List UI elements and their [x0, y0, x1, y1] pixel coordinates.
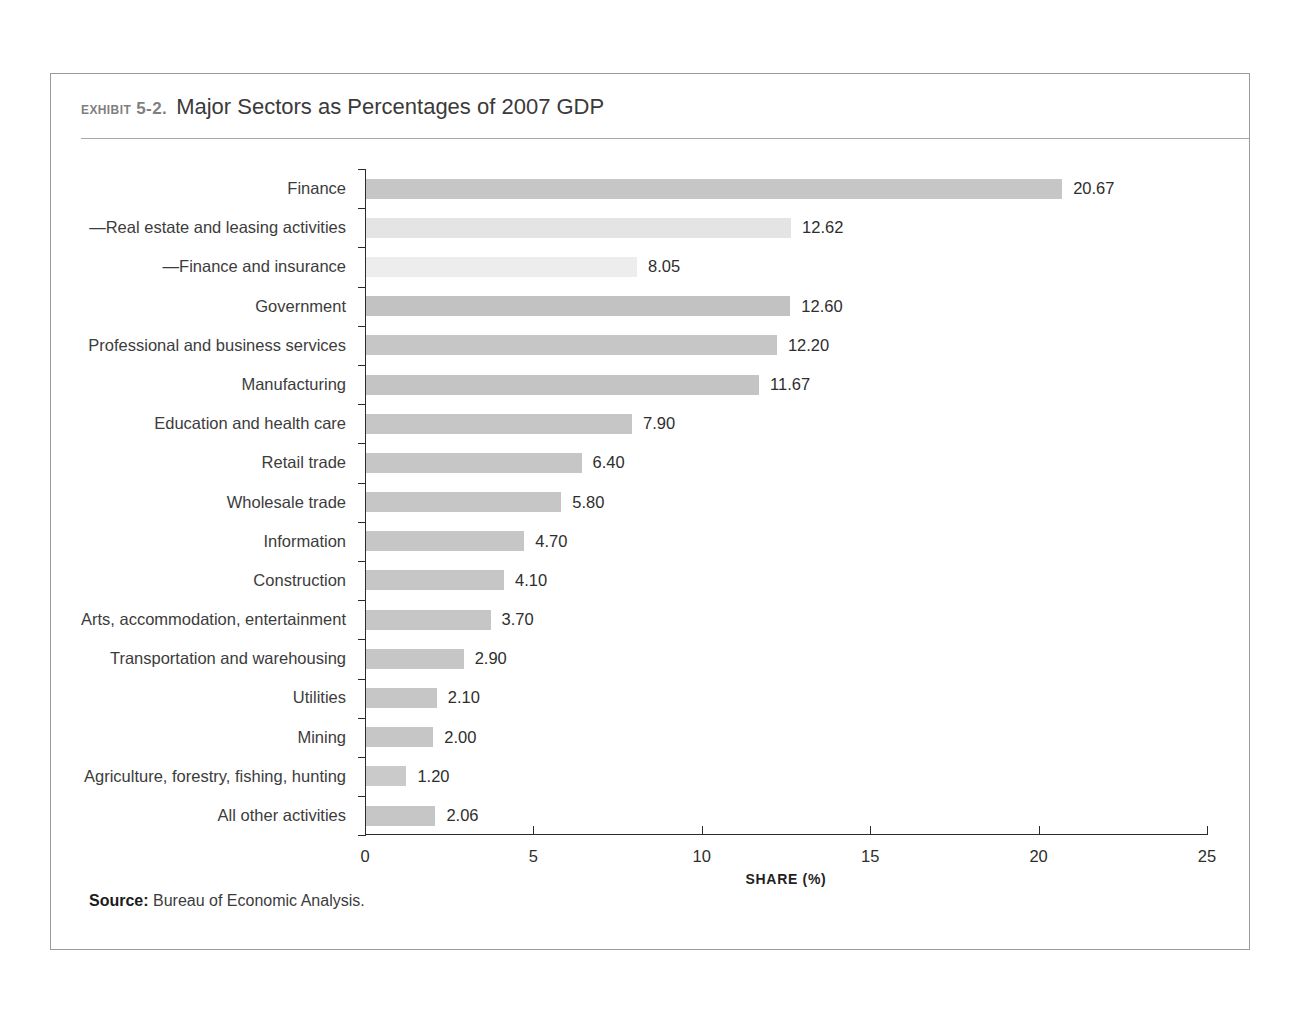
bar-value-label: 2.10	[437, 678, 480, 717]
bar	[366, 179, 1062, 199]
chart-row: Information4.70	[51, 522, 1251, 561]
chart-row: Government12.60	[51, 287, 1251, 326]
source-label: Source:	[89, 892, 149, 909]
bar	[366, 727, 433, 747]
x-axis-tick-label: 25	[1198, 847, 1216, 866]
bar-value-label: 12.62	[791, 208, 843, 247]
chart-row: Finance20.67	[51, 169, 1251, 208]
bar-value-label: 2.06	[435, 796, 478, 835]
y-axis-tick	[358, 483, 366, 484]
y-axis-tick	[358, 169, 366, 170]
bar	[366, 453, 582, 473]
category-label: Wholesale trade	[227, 483, 346, 522]
chart-row: Construction4.10	[51, 561, 1251, 600]
bar	[366, 610, 491, 630]
bar-value-label: 3.70	[491, 600, 534, 639]
bar-value-label: 2.00	[433, 718, 476, 757]
bar	[366, 257, 637, 277]
bar	[366, 375, 759, 395]
category-label: Utilities	[293, 678, 346, 717]
x-axis-tick	[365, 826, 366, 835]
chart-row: Utilities2.10	[51, 678, 1251, 717]
y-axis-tick	[358, 443, 366, 444]
y-axis-tick	[358, 522, 366, 523]
category-label: —Real estate and leasing activities	[89, 208, 346, 247]
bar-value-label: 20.67	[1062, 169, 1114, 208]
bar	[366, 806, 435, 826]
category-label: Agriculture, forestry, fishing, hunting	[84, 757, 346, 796]
category-label: Arts, accommodation, entertainment	[81, 600, 346, 639]
category-label: Mining	[297, 718, 346, 757]
bar	[366, 414, 632, 434]
chart-row: Agriculture, forestry, fishing, hunting1…	[51, 757, 1251, 796]
x-axis-tick	[1207, 826, 1208, 835]
y-axis-tick	[358, 600, 366, 601]
x-axis-title: SHARE (%)	[365, 871, 1207, 887]
category-label: Finance	[287, 169, 346, 208]
category-label: Education and health care	[154, 404, 346, 443]
bar-value-label: 11.67	[759, 365, 810, 404]
category-label: Transportation and warehousing	[110, 639, 346, 678]
bar-value-label: 5.80	[561, 483, 604, 522]
chart-row: Education and health care7.90	[51, 404, 1251, 443]
bar-value-label: 4.70	[524, 522, 567, 561]
chart-row: Manufacturing11.67	[51, 365, 1251, 404]
x-axis-tick-label: 15	[861, 847, 879, 866]
chart-row: Wholesale trade5.80	[51, 483, 1251, 522]
x-axis-tick	[870, 826, 871, 835]
bar-value-label: 6.40	[582, 443, 625, 482]
y-axis-tick	[358, 718, 366, 719]
y-axis-tick	[358, 835, 366, 836]
source-note: Source: Bureau of Economic Analysis.	[89, 892, 365, 910]
y-axis-tick	[358, 639, 366, 640]
bar-value-label: 7.90	[632, 404, 675, 443]
category-label: Manufacturing	[241, 365, 346, 404]
x-axis-tick-label: 0	[360, 847, 369, 866]
chart-row: Arts, accommodation, entertainment3.70	[51, 600, 1251, 639]
bar	[366, 766, 406, 786]
bar-value-label: 1.20	[406, 757, 449, 796]
chart-row: —Real estate and leasing activities12.62	[51, 208, 1251, 247]
bar-chart: Finance20.67—Real estate and leasing act…	[51, 74, 1251, 951]
bar-value-label: 4.10	[504, 561, 547, 600]
y-axis-tick	[358, 247, 366, 248]
bar	[366, 492, 561, 512]
x-axis-tick-label: 10	[693, 847, 711, 866]
bar	[366, 335, 777, 355]
chart-rows: Finance20.67—Real estate and leasing act…	[51, 169, 1251, 835]
y-axis-tick	[358, 404, 366, 405]
chart-row: Professional and business services12.20	[51, 326, 1251, 365]
x-axis-tick	[533, 826, 534, 835]
bar	[366, 296, 790, 316]
category-label: Government	[255, 287, 346, 326]
bar-value-label: 2.90	[464, 639, 507, 678]
y-axis-tick	[358, 796, 366, 797]
category-label: All other activities	[218, 796, 346, 835]
chart-row: —Finance and insurance8.05	[51, 247, 1251, 286]
chart-row: All other activities2.06	[51, 796, 1251, 835]
source-text: Bureau of Economic Analysis.	[153, 892, 365, 909]
y-axis-tick	[358, 365, 366, 366]
bar	[366, 218, 791, 238]
bar-value-label: 8.05	[637, 247, 680, 286]
x-axis-tick	[1039, 826, 1040, 835]
chart-row: Transportation and warehousing2.90	[51, 639, 1251, 678]
bar	[366, 570, 504, 590]
bar-value-label: 12.60	[790, 287, 842, 326]
bar	[366, 649, 464, 669]
y-axis-tick	[358, 561, 366, 562]
bar	[366, 531, 524, 551]
bar-value-label: 12.20	[777, 326, 829, 365]
y-axis-tick	[358, 208, 366, 209]
y-axis-tick	[358, 326, 366, 327]
y-axis	[365, 169, 366, 835]
category-label: Professional and business services	[88, 326, 346, 365]
category-label: —Finance and insurance	[163, 247, 346, 286]
bar	[366, 688, 437, 708]
x-axis-tick-label: 5	[529, 847, 538, 866]
category-label: Construction	[253, 561, 346, 600]
y-axis-tick	[358, 679, 366, 680]
category-label: Retail trade	[262, 443, 346, 482]
y-axis-tick	[358, 287, 366, 288]
x-axis: 0510152025	[365, 834, 1207, 835]
